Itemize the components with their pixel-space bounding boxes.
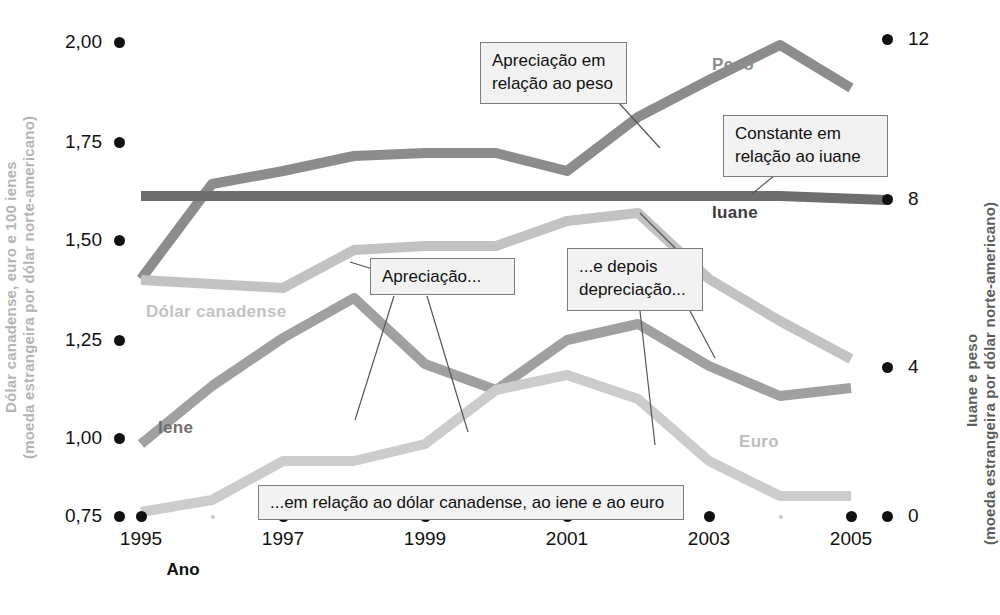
- chart-canvas: Dólar canadense, euro e 100 ienes (moeda…: [0, 0, 1000, 615]
- y-left-tick-2-00: 2,00: [40, 31, 102, 53]
- series-label-iene: Iene: [158, 418, 193, 438]
- x-tick-dot-2005: [846, 511, 857, 522]
- y-left-tick-dot-0-75: [114, 511, 125, 522]
- y-right-tick-dot-8: [882, 194, 893, 205]
- y-left-tick-1-00: 1,00: [40, 427, 102, 449]
- x-tick-dot-2004: [779, 515, 783, 519]
- y-left-tick-dot-1-50: [114, 235, 125, 246]
- right-axis-title: Iuane e peso (moeda estrangeira por dóla…: [963, 215, 998, 545]
- y-left-tick-dot-2-00: [114, 37, 125, 48]
- y-left-tick-1-25: 1,25: [40, 329, 102, 351]
- y-left-tick-1-75: 1,75: [40, 131, 102, 153]
- x-tick-label-2005: 2005: [806, 528, 896, 550]
- y-left-tick-1-50: 1,50: [40, 229, 102, 251]
- y-left-tick-0-75: 0,75: [40, 505, 102, 527]
- x-tick-label-1995: 1995: [96, 528, 186, 550]
- callout-em-relacao: ...em relação ao dólar canadense, ao ien…: [258, 485, 684, 520]
- x-axis-title: Ano: [118, 560, 248, 580]
- y-right-tick-4: 4: [908, 356, 948, 378]
- y-right-tick-dot-4: [882, 362, 893, 373]
- x-tick-label-2003: 2003: [664, 528, 754, 550]
- series-label-euro: Euro: [739, 432, 779, 452]
- series-label-iuane: Iuane: [712, 203, 758, 223]
- x-tick-label-1999: 1999: [380, 528, 470, 550]
- x-tick-label-2001: 2001: [522, 528, 612, 550]
- left-axis-title: Dólar canadense, euro e 100 ienes (moeda…: [2, 52, 37, 522]
- x-tick-dot-1995: [136, 511, 147, 522]
- callout-apreciacao: Apreciação...: [370, 258, 515, 295]
- series-line-iuane: [141, 196, 886, 200]
- callout-constante-iuane: Constante em relação ao iuane: [723, 115, 888, 177]
- y-right-tick-dot-0: [882, 511, 893, 522]
- y-left-tick-dot-1-00: [114, 433, 125, 444]
- y-right-tick-12: 12: [908, 28, 948, 50]
- x-tick-dot-1996: [211, 515, 215, 519]
- series-label-dolar-canadense: Dólar canadense: [146, 302, 287, 322]
- series-label-peso: Peso: [712, 55, 754, 75]
- leader-depreciacao-c: [690, 311, 715, 358]
- y-left-tick-dot-1-25: [114, 335, 125, 346]
- y-right-tick-dot-12: [882, 34, 893, 45]
- y-right-tick-8: 8: [908, 188, 948, 210]
- y-right-tick-0: 0: [908, 505, 948, 527]
- y-left-tick-dot-1-75: [114, 137, 125, 148]
- callout-depois-depreciacao: ...e depois depreciação...: [567, 248, 703, 311]
- x-tick-dot-2003: [704, 511, 715, 522]
- x-tick-label-1997: 1997: [238, 528, 328, 550]
- callout-apreciacao-peso: Apreciação em relação ao peso: [480, 42, 627, 104]
